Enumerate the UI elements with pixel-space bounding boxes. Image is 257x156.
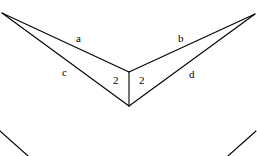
label-side-c: c	[62, 67, 67, 78]
segment-d	[129, 14, 255, 106]
label-side-a: a	[76, 33, 81, 44]
label-angle-left: 2	[113, 75, 119, 86]
label-side-d: d	[189, 69, 195, 80]
figure-canvas	[0, 0, 257, 156]
segment-a	[2, 13, 129, 72]
label-side-b: b	[178, 33, 184, 44]
geometry-figure: a b c d 2 2	[0, 0, 257, 156]
partial-line-right	[228, 131, 256, 156]
label-angle-right: 2	[139, 75, 145, 86]
partial-line-left	[0, 131, 28, 156]
segment-c	[2, 13, 129, 106]
segment-b	[129, 14, 255, 72]
